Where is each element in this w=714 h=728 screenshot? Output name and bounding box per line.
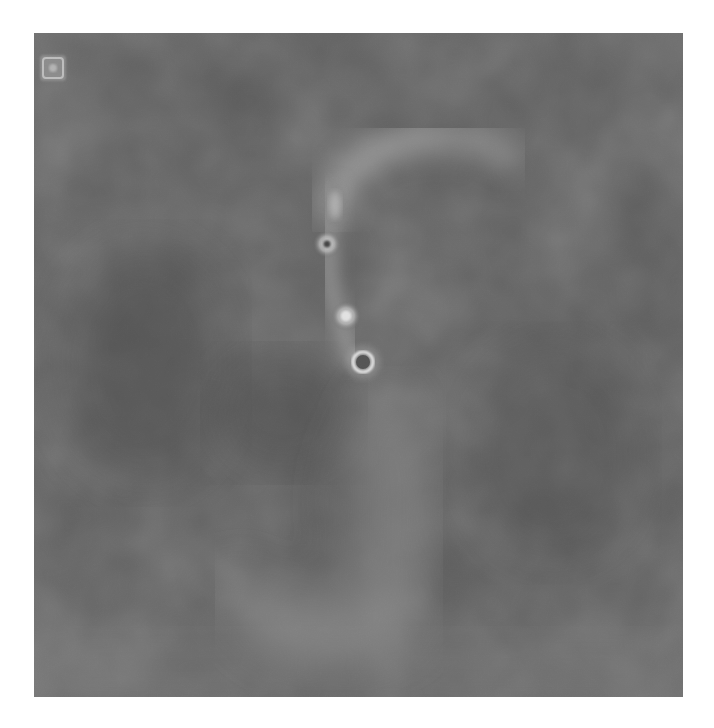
figure-frame [0, 0, 714, 728]
intensity-map [34, 33, 683, 697]
intensity-image [34, 33, 683, 697]
